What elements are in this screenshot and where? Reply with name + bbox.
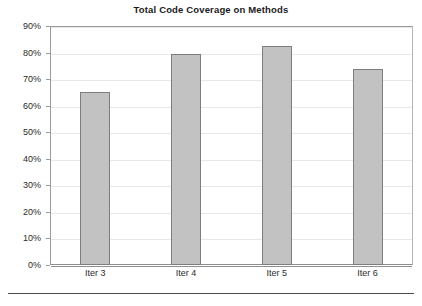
- bottom-rule: [8, 293, 414, 294]
- gridline: [51, 266, 412, 267]
- bar[interactable]: [171, 54, 201, 265]
- y-axis-tick-label: 70%: [23, 73, 41, 85]
- bar[interactable]: [80, 92, 110, 265]
- bar[interactable]: [353, 69, 383, 265]
- bar-slot: [50, 26, 141, 265]
- y-axis-tick: 30%: [0, 179, 50, 191]
- y-axis-tick-label: 80%: [23, 47, 41, 59]
- y-axis-tick-label: 90%: [23, 20, 41, 32]
- y-axis-tick: 90%: [0, 20, 50, 32]
- y-axis-tick-label: 60%: [23, 100, 41, 112]
- y-axis-tick-label: 40%: [23, 153, 41, 165]
- y-axis-tick-label: 50%: [23, 126, 41, 138]
- y-axis-tick-label: 10%: [23, 232, 41, 244]
- y-axis-tick: 10%: [0, 232, 50, 244]
- y-axis-tick: 70%: [0, 73, 50, 85]
- bar-slot: [232, 26, 323, 265]
- chart-title: Total Code Coverage on Methods: [0, 4, 422, 15]
- y-axis-tick: 50%: [0, 126, 50, 138]
- x-axis: Iter 3Iter 4Iter 5Iter 6: [50, 268, 413, 278]
- x-axis-tick-label: Iter 5: [232, 268, 323, 278]
- y-axis-tick: 60%: [0, 100, 50, 112]
- y-axis-tick-label: 20%: [23, 206, 41, 218]
- x-axis-tick-label: Iter 3: [50, 268, 141, 278]
- bar-slot: [141, 26, 232, 265]
- y-axis-tick: 80%: [0, 47, 50, 59]
- y-axis-tick-label: 30%: [23, 179, 41, 191]
- bar[interactable]: [262, 46, 292, 265]
- x-axis-tick-label: Iter 6: [322, 268, 413, 278]
- y-axis-tick: 40%: [0, 153, 50, 165]
- y-axis: 90%80%70%60%50%40%30%20%10%0%: [0, 26, 50, 265]
- bars-layer: [50, 26, 413, 265]
- x-axis-tick-label: Iter 4: [141, 268, 232, 278]
- chart-figure: Total Code Coverage on Methods 90%80%70%…: [0, 0, 422, 306]
- y-axis-tick: 20%: [0, 206, 50, 218]
- y-axis-tick-label: 0%: [28, 259, 41, 271]
- y-axis-tick-mark: [46, 265, 50, 266]
- bar-slot: [322, 26, 413, 265]
- y-axis-tick: 0%: [0, 259, 50, 271]
